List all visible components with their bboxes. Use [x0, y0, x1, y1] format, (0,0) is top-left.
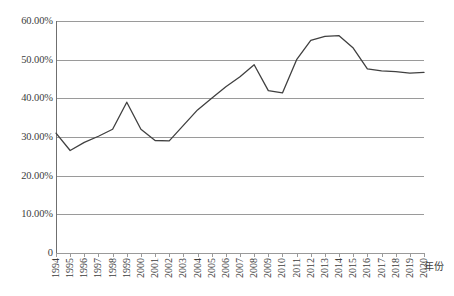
y-axis-line	[56, 21, 57, 254]
x-tick-mark	[98, 254, 99, 257]
x-axis-title: 年份	[424, 261, 444, 272]
x-tick-mark	[311, 254, 312, 257]
x-tick-mark	[254, 254, 255, 257]
x-tick-mark	[141, 254, 142, 257]
y-axis-tick-20: 20.00%	[1, 171, 53, 182]
x-axis-tick-label: 2010	[277, 258, 287, 278]
x-tick-mark	[268, 254, 269, 257]
x-axis-tick-label: 2006	[221, 258, 231, 278]
y-axis-tick-50: 50.00%	[1, 55, 53, 66]
x-tick-mark	[169, 254, 170, 257]
y-axis-tick-30: 30.00%	[1, 132, 53, 143]
x-axis-tick-label: 2009	[263, 258, 273, 278]
x-axis-tick-label: 2003	[178, 258, 188, 278]
x-axis-tick-label: 2000	[136, 258, 146, 278]
x-axis-tick-label: 2015	[348, 258, 358, 278]
x-tick-mark	[325, 254, 326, 257]
gridline-20	[56, 176, 424, 177]
x-tick-mark	[353, 254, 354, 257]
x-tick-mark	[183, 254, 184, 257]
x-axis-tick-label: 2005	[207, 258, 217, 278]
x-axis-tick-label: 2004	[193, 258, 203, 278]
x-tick-mark	[84, 254, 85, 257]
x-axis-tick-label: 1994	[51, 258, 61, 278]
x-tick-mark	[297, 254, 298, 257]
x-tick-mark	[382, 254, 383, 257]
x-axis-tick-label: 2008	[249, 258, 259, 278]
x-axis-tick-label: 2018	[391, 258, 401, 278]
x-tick-mark	[424, 254, 425, 257]
x-tick-mark	[127, 254, 128, 257]
y-axis-tick-40: 40.00%	[1, 93, 53, 104]
y-axis-tick-10: 10.00%	[1, 209, 53, 220]
x-axis-tick-label: 1999	[122, 258, 132, 278]
x-axis-tick-label: 2014	[334, 258, 344, 278]
x-axis-tick-label: 2017	[377, 258, 387, 278]
x-axis-tick-label: 2013	[320, 258, 330, 278]
gridline-30	[56, 137, 424, 138]
x-tick-mark	[282, 254, 283, 257]
x-tick-mark	[155, 254, 156, 257]
x-tick-mark	[70, 254, 71, 257]
plot-area	[56, 21, 424, 253]
x-axis-tick-label: 1997	[93, 258, 103, 278]
gridline-60	[56, 21, 424, 22]
x-axis-tick-label: 2019	[405, 258, 415, 278]
x-axis-tick-label: 2012	[306, 258, 316, 278]
x-axis-tick-label: 1995	[65, 258, 75, 278]
x-axis-tick-label: 2016	[362, 258, 372, 278]
x-axis-tick-label: 2011	[292, 258, 302, 278]
line-chart: 010.00%20.00%30.00%40.00%50.00%60.00% 19…	[0, 0, 454, 296]
x-axis-tick-labels: 1994199519961997199819992000200120022003…	[56, 254, 425, 296]
y-axis-tick-labels: 010.00%20.00%30.00%40.00%50.00%60.00%	[0, 0, 53, 296]
x-tick-mark	[410, 254, 411, 257]
gridline-50	[56, 60, 424, 61]
x-tick-mark	[240, 254, 241, 257]
x-tick-mark	[339, 254, 340, 257]
x-tick-mark	[198, 254, 199, 257]
y-axis-tick-0: 0	[1, 248, 53, 259]
y-axis-tick-60: 60.00%	[1, 16, 53, 27]
x-axis-tick-label: 2001	[150, 258, 160, 278]
x-axis-tick-label: 1996	[79, 258, 89, 278]
x-tick-mark	[396, 254, 397, 257]
x-axis-tick-label: 2007	[235, 258, 245, 278]
x-axis-tick-label: 2002	[164, 258, 174, 278]
x-tick-mark	[226, 254, 227, 257]
x-tick-mark	[56, 254, 57, 257]
x-axis-tick-label: 1998	[108, 258, 118, 278]
x-tick-mark	[212, 254, 213, 257]
x-tick-mark	[367, 254, 368, 257]
gridline-40	[56, 98, 424, 99]
x-tick-mark	[113, 254, 114, 257]
gridline-10	[56, 214, 424, 215]
